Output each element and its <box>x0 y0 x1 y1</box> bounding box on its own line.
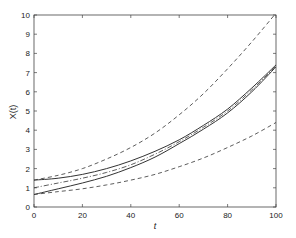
x-tick-label: 20 <box>78 211 87 220</box>
y-tick-label: 1 <box>26 184 31 193</box>
plot-area <box>34 15 276 207</box>
y-tick-label: 5 <box>26 107 31 116</box>
x-axis-label: t <box>154 221 157 231</box>
y-tick-label: 9 <box>26 30 31 39</box>
y-tick-label: 3 <box>26 145 31 154</box>
line-chart: 012345678910 020406080100 t X(t) <box>0 0 296 238</box>
x-tick-label: 80 <box>223 211 232 220</box>
x-tick-label: 0 <box>32 211 37 220</box>
y-tick-label: 10 <box>21 11 30 20</box>
x-tick-label: 40 <box>126 211 135 220</box>
y-tick-label: 0 <box>26 203 31 212</box>
y-tick-label: 2 <box>26 165 31 174</box>
y-axis-label: X(t) <box>8 105 18 120</box>
y-tick-label: 7 <box>26 69 31 78</box>
y-tick-label: 8 <box>26 49 31 58</box>
x-tick-label: 60 <box>175 211 184 220</box>
x-tick-label: 100 <box>269 211 283 220</box>
y-tick-label: 6 <box>26 88 31 97</box>
y-tick-label: 4 <box>26 126 31 135</box>
